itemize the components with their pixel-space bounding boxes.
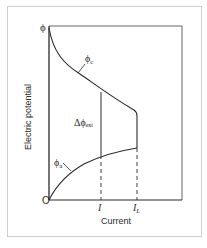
x-axis-label: Current	[101, 216, 132, 226]
phi-c-label: ϕc	[85, 53, 93, 66]
electric-potential-diagram: ϕ O ϕc ϕa Δϕext I IL Current Electric po…	[0, 0, 207, 248]
phi-c-leader	[78, 64, 85, 73]
outer-frame	[8, 7, 202, 237]
phi-a-label: ϕa	[54, 157, 63, 170]
x-tick-current: I	[97, 202, 102, 213]
y-axis-label: Electric potential	[23, 84, 33, 150]
phi-a-leader	[63, 163, 71, 171]
cathode-potential-curve	[49, 28, 137, 148]
delta-phi-ext-label: Δϕext	[74, 117, 93, 128]
phi-top-label: ϕ	[40, 21, 46, 33]
anode-potential-curve	[49, 148, 137, 200]
origin-label: O	[42, 195, 50, 206]
x-tick-limiting-current: IL	[132, 202, 140, 215]
